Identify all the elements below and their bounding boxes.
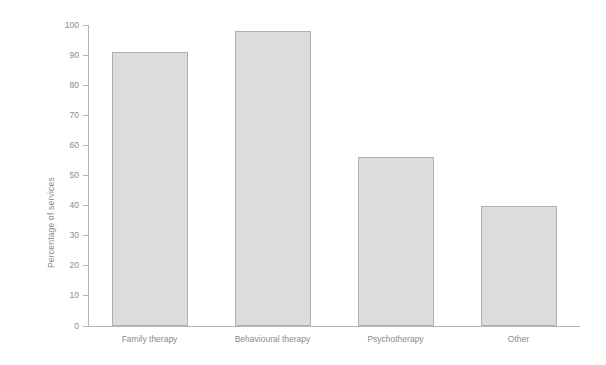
x-axis-label: Behavioural therapy: [235, 333, 311, 345]
y-axis-title: Percentage of services: [44, 48, 58, 268]
y-axis-line: [88, 25, 89, 327]
bar: [112, 52, 188, 326]
y-axis-tick-label: 80: [70, 79, 79, 91]
y-axis-tick-label: 60: [70, 139, 79, 151]
bar-chart: Percentage of services 01020304050607080…: [0, 0, 606, 365]
bar: [235, 31, 311, 326]
y-axis-tick: 70: [83, 115, 88, 116]
y-axis-tick: 50: [83, 175, 88, 176]
bar: [481, 206, 557, 326]
x-axis-line: [88, 326, 580, 327]
y-axis-tick-label: 0: [74, 320, 79, 332]
plot-area: 0102030405060708090100 Family therapyBeh…: [88, 25, 580, 327]
y-axis-tick-label: 30: [70, 229, 79, 241]
y-axis-tick: 40: [83, 205, 88, 206]
y-axis-tick: 90: [83, 55, 88, 56]
x-axis-label: Psychotherapy: [367, 333, 423, 345]
y-axis-tick: 20: [83, 265, 88, 266]
y-axis-tick: 0: [83, 326, 88, 327]
y-axis-tick-label: 50: [70, 169, 79, 181]
y-axis-tick: 60: [83, 145, 88, 146]
y-axis-tick-label: 70: [70, 109, 79, 121]
y-axis-tick: 30: [83, 235, 88, 236]
x-axis-label: Family therapy: [122, 333, 178, 345]
bar: [358, 157, 434, 326]
y-axis-tick-label: 40: [70, 199, 79, 211]
x-axis-label: Other: [508, 333, 529, 345]
y-axis-tick-label: 100: [65, 19, 79, 31]
y-axis-tick-label: 90: [70, 49, 79, 61]
y-axis-tick: 10: [83, 295, 88, 296]
y-axis-tick: 100: [83, 25, 88, 26]
y-axis-tick: 80: [83, 85, 88, 86]
y-axis-tick-label: 20: [70, 259, 79, 271]
y-axis-tick-label: 10: [70, 289, 79, 301]
